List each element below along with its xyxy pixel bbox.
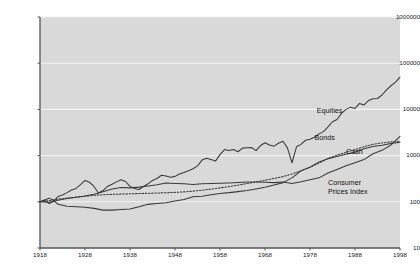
- y-tick-label: 10: [384, 245, 420, 251]
- y-tick-label: 1000: [384, 152, 420, 158]
- tick-marks: [38, 17, 401, 251]
- y-tick-label: 1000000: [384, 14, 420, 20]
- y-tick-label: 100: [384, 199, 420, 205]
- y-tick-label: 100000: [384, 60, 420, 66]
- x-tick-label: 1978: [290, 252, 330, 258]
- series-label-bonds: Bonds: [315, 134, 335, 143]
- axis-lines: [40, 17, 400, 248]
- x-tick-label: 1918: [20, 252, 60, 258]
- series-label-consumer-prices-index: Consumer Prices Index: [328, 179, 368, 196]
- x-tick-label: 1988: [335, 252, 375, 258]
- chart-svg: [0, 0, 420, 273]
- y-tick-label: 10000: [384, 106, 420, 112]
- x-tick-label: 1958: [200, 252, 240, 258]
- x-tick-label: 1928: [65, 252, 105, 258]
- chart-container: 100000010000010000100010010 191819281938…: [0, 0, 420, 273]
- x-tick-label: 1938: [110, 252, 150, 258]
- x-tick-label: 1948: [155, 252, 195, 258]
- series-label-cash: Cash: [346, 148, 363, 157]
- series-label-equities: Equities: [317, 107, 343, 116]
- x-tick-label: 1968: [245, 252, 285, 258]
- x-tick-label: 1998: [380, 252, 420, 258]
